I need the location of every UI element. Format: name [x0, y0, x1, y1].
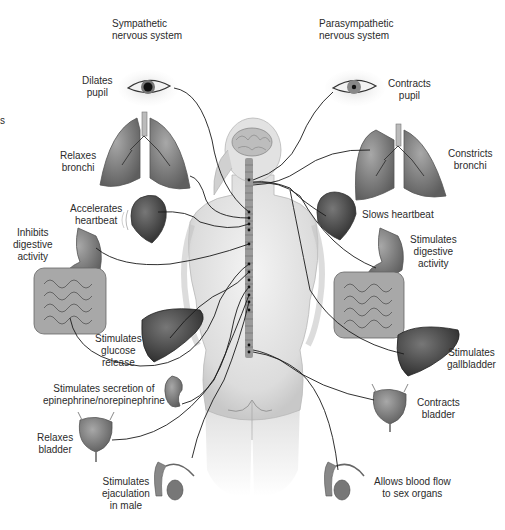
label-slows-heartbeat: Slows heartbeat — [362, 209, 434, 221]
left-bladder — [78, 412, 114, 462]
label-relaxes-bronchi: Relaxes bronchi — [60, 150, 96, 174]
left-male-reproductive — [154, 462, 194, 500]
parasympathetic-header: Parasympathetic nervous system — [319, 18, 393, 42]
human-body-back-view — [184, 118, 322, 496]
label-accelerates-heartbeat: Accelerates heartbeat — [70, 203, 122, 227]
left-eye-dilated — [118, 70, 178, 106]
label-stimulates-gallbladder: Stimulates gallbladder — [447, 347, 496, 371]
right-heart — [317, 192, 356, 240]
diagram-canvas: Sympathetic nervous system Parasympathet… — [0, 0, 505, 530]
right-male-reproductive — [324, 462, 364, 500]
right-bladder — [372, 384, 408, 432]
label-contracts-pupil: Contracts pupil — [388, 78, 431, 102]
header-line: Sympathetic — [112, 18, 182, 30]
label-contracts-bladder: Contracts bladder — [417, 397, 460, 421]
left-intestines — [34, 268, 106, 334]
left-lungs — [100, 112, 190, 189]
header-line: nervous system — [112, 30, 182, 42]
adrenal-kidney — [165, 376, 182, 407]
label-relaxes-bladder: Relaxes bladder — [37, 432, 73, 456]
label-constricts-bronchi: Constricts bronchi — [448, 148, 492, 172]
label-inhibits-digestive-activity: Inhibits digestive activity — [13, 227, 52, 263]
header-line: nervous system — [319, 30, 393, 42]
left-heart — [122, 195, 166, 243]
edge-text-fragment: s — [0, 115, 5, 127]
sympathetic-header: Sympathetic nervous system — [112, 18, 182, 42]
label-allows-blood-flow: Allows blood flow to sex organs — [374, 476, 451, 500]
label-stimulates-glucose-release: Stimulates glucose release — [95, 333, 142, 369]
right-lungs — [355, 124, 446, 200]
label-dilates-pupil: Dilates pupil — [82, 75, 113, 99]
right-eye-constricted — [325, 70, 385, 106]
label-stimulates-ejaculation: Stimulates ejaculation in male — [102, 476, 150, 512]
label-stimulates-epinephrine: Stimulates secretion of epinephrine/nore… — [43, 383, 165, 407]
label-stimulates-digestive-activity: Stimulates digestive activity — [410, 234, 457, 270]
header-line: Parasympathetic — [319, 18, 393, 30]
